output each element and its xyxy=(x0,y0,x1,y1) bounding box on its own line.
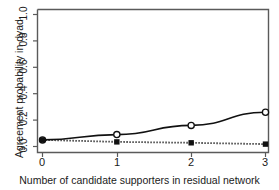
data-point-marker xyxy=(263,141,268,146)
chart-figure: .. Agreement probability in dyad Number … xyxy=(0,0,279,190)
data-point-marker xyxy=(188,122,194,128)
plot-area xyxy=(0,0,279,190)
series-open-circle-solid xyxy=(39,109,268,143)
data-point-marker xyxy=(114,139,119,144)
data-point-marker xyxy=(40,137,45,142)
data-point-marker xyxy=(114,132,120,138)
data-point-marker xyxy=(262,109,268,115)
data-point-marker xyxy=(188,140,193,145)
